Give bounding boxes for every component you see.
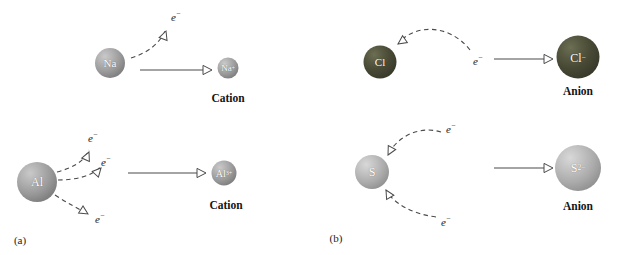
electron-transfer-arrow-chlorine-1: [396, 29, 470, 50]
ionic-charge: 3+: [226, 170, 233, 176]
panel-label-a: (a): [14, 234, 26, 246]
atom-sodium: Na: [95, 48, 125, 78]
ion-type-caption-aluminium: Cation: [209, 199, 242, 211]
electron-charge: −: [93, 130, 98, 139]
reaction-arrow-chlorine: [494, 54, 553, 63]
electron-transfer-arrow-aluminium-3: [55, 195, 90, 218]
ion-sulfur: S2−: [555, 145, 601, 191]
element-symbol: S: [369, 166, 376, 178]
electron-transfer-arrow-sulfur-1: [384, 130, 441, 157]
reaction-arrow-aluminium: [128, 168, 206, 177]
electron-charge: −: [100, 211, 105, 220]
electron-charge: −: [451, 121, 456, 130]
electron-label-aluminium-2: e−: [101, 154, 111, 168]
electron-transfer-arrow-aluminium-1: [57, 150, 93, 172]
electron-label-sulfur-2: e−: [441, 214, 451, 228]
atom-sulfur: S: [355, 155, 389, 189]
ionic-charge: −: [582, 53, 586, 60]
atom-aluminium: Al: [17, 162, 57, 202]
electron-transfer-arrow-sodium-1: [131, 29, 170, 58]
element-symbol: Al: [31, 176, 43, 188]
ion-type-caption-sulfur: Anion: [563, 200, 593, 212]
ionic-charge: +: [232, 65, 235, 71]
electron-label-sodium-1: e−: [171, 9, 181, 23]
ion-aluminium: Al3+: [212, 161, 237, 186]
electron-label-chlorine-1: e−: [473, 53, 483, 67]
electron-label-sulfur-1: e−: [446, 121, 456, 135]
electron-transfer-arrow-sulfur-2: [382, 188, 436, 217]
electron-charge: −: [176, 9, 181, 18]
reaction-arrow-sodium: [140, 65, 212, 74]
electron-transfer-arrow-aluminium-2: [58, 165, 104, 180]
electron-label-aluminium-3: e−: [95, 211, 105, 225]
atom-chlorine: Cl: [364, 46, 397, 79]
element-symbol: Cl: [375, 57, 385, 68]
reaction-arrow-sulfur: [494, 163, 553, 172]
electron-label-aluminium-1: e−: [88, 130, 98, 144]
element-symbol: Cl: [570, 51, 581, 63]
ionic-charge: 2−: [577, 164, 585, 171]
element-symbol: Al: [216, 168, 226, 178]
electron-charge: −: [106, 154, 111, 163]
panel-label-b: (b): [330, 232, 343, 244]
ion-type-caption-sodium: Cation: [211, 92, 244, 104]
ion-chlorine: Cl−: [557, 36, 600, 79]
ion-formation-figure: (a)e−NaNa+Catione−e−e−AlAl3+Cation(b)e−C…: [0, 0, 630, 255]
element-symbol: Na: [221, 64, 232, 73]
electron-charge: −: [478, 53, 483, 62]
ion-type-caption-chlorine: Anion: [563, 85, 593, 97]
element-symbol: Na: [104, 58, 117, 69]
ion-sodium: Na+: [218, 58, 239, 79]
electron-charge: −: [446, 214, 451, 223]
